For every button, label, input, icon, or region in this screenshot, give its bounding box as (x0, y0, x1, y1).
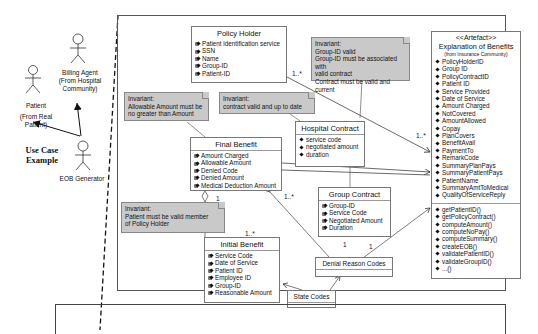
class-denial-reason-codes[interactable]: Denial Reason Codes (315, 257, 393, 277)
attribute: BenefitAvail (435, 139, 517, 146)
operation-icon (435, 251, 441, 256)
private-attribute-icon (208, 268, 214, 273)
operation: computeNoPay() (435, 228, 517, 235)
attribute: NotCovered (435, 110, 517, 117)
multiplicity-label: 1..* (245, 230, 255, 237)
operation: computeSummary() (435, 235, 517, 242)
attribute: Denied Amount (194, 174, 278, 181)
class-policy-holder[interactable]: Policy Holder Patient identification ser… (191, 26, 287, 83)
class-title: State Codes (288, 291, 335, 303)
use-case-example-label: Use Case Example (22, 145, 62, 165)
attribute: Allowable Amount (194, 159, 278, 166)
patient-actor-icon (20, 65, 46, 97)
operation-icon (435, 266, 441, 271)
billing-agent-origin-1: (From Hospital (55, 77, 105, 85)
note-fold-icon (308, 92, 315, 99)
class-title: Policy Holder (192, 27, 286, 39)
attribute: service code (299, 136, 361, 143)
private-attribute-icon (195, 56, 201, 61)
note-group-invariant: Invariant: Group-ID valid Group-ID must … (311, 37, 410, 81)
bottom-frame (55, 304, 506, 334)
attribute: Medical Deduction Amount (194, 182, 278, 189)
multiplicity-label: 1 (216, 195, 220, 202)
attribute: Service Provided (435, 88, 517, 95)
attribute: Patient-ID (195, 70, 283, 77)
attribute-icon (299, 152, 305, 157)
private-attribute-icon (195, 63, 201, 68)
class-explanation-of-benefits[interactable]: <<Artefact>> Explanation of Benefits (fr… (431, 31, 521, 279)
attribute-icon (435, 148, 441, 153)
operation: ...() (435, 265, 517, 272)
multiplicity-label: 1 (343, 241, 347, 248)
attribute: Negotiated Amount (322, 217, 387, 224)
attribute-icon (435, 126, 441, 131)
attribute: SummaryAmtToMedical (435, 184, 517, 191)
class-subtitle: (from Insurance Community) (432, 51, 520, 58)
private-attribute-icon (194, 183, 200, 188)
note-patient-invariant: Invariant: Patient must be valid member … (121, 202, 225, 233)
attribute: QualityOfServiceReply (435, 191, 517, 198)
patient-name: Patient (8, 102, 64, 110)
attribute: Date of Service (435, 95, 517, 102)
multiplicity-label: 1..* (416, 132, 426, 139)
attribute: Service Code (322, 209, 387, 216)
private-attribute-icon (322, 203, 328, 208)
attribute: Duration (322, 224, 387, 231)
note-fold-icon (202, 92, 209, 99)
operation-icon (435, 222, 441, 227)
class-title: Hospital Contract (296, 122, 364, 135)
attribute-icon (435, 118, 441, 123)
attribute: SSN (195, 47, 283, 54)
operation-icon (435, 207, 441, 212)
attribute: Date of Service (208, 259, 276, 266)
class-group-contract[interactable]: Group Contract Group-ID Service Code Neg… (318, 187, 391, 237)
class-title: Final Benefit (191, 138, 281, 151)
attribute-icon (435, 74, 441, 79)
attribute: PatientName (435, 177, 517, 184)
use-case-line-1: Use Case (22, 145, 62, 155)
attribute-icon (435, 170, 441, 175)
class-hospital-contract[interactable]: Hospital Contract service code negotiate… (295, 121, 365, 167)
operation: validatePatientID() (435, 250, 517, 257)
attribute: Group-ID (208, 282, 276, 289)
billing-agent-actor-icon (65, 33, 91, 69)
operation: getPolicyContract() (435, 213, 517, 220)
note-fold-icon (403, 37, 410, 44)
billing-agent-label: Billing Agent (From Hospital Community) (55, 69, 105, 93)
private-attribute-icon (208, 283, 214, 288)
eob-generator-actor-icon (70, 140, 96, 174)
attribute: negotiated amount (299, 143, 361, 150)
attribute-icon (435, 67, 441, 72)
attribute: AmountAllowed (435, 117, 517, 124)
private-attribute-icon (208, 261, 214, 266)
attribute-icon (435, 141, 441, 146)
stereotype-label: <<Artefact>> (432, 32, 520, 42)
use-case-line-2: Example (22, 155, 62, 165)
private-attribute-icon (195, 71, 201, 76)
operation-icon (435, 244, 441, 249)
multiplicity-label: 1..* (292, 70, 302, 77)
attribute: PolicyHolderID (435, 58, 517, 65)
attribute: SummaryPatientPays (435, 169, 517, 176)
class-title: Denial Reason Codes (316, 258, 392, 270)
note-contract-invariant: Invariant: contract valid and up to date (219, 92, 315, 114)
operation: validateGroupID() (435, 258, 517, 265)
attribute-icon (435, 81, 441, 86)
multiplicity-label: 1 (369, 243, 373, 250)
private-attribute-icon (194, 153, 200, 158)
attribute: Employee ID (208, 274, 276, 281)
class-title: Group Contract (319, 188, 390, 201)
attribute-icon (299, 145, 305, 150)
class-initial-benefit[interactable]: Initial Benefit Service Code Date of Ser… (204, 237, 280, 303)
class-final-benefit[interactable]: Final Benefit Amount Charged Allowable A… (190, 137, 282, 191)
operation: computeAmount() (435, 221, 517, 228)
attribute-icon (299, 137, 305, 142)
private-attribute-icon (208, 253, 214, 258)
attribute: Patient ID (435, 80, 517, 87)
attribute-icon (435, 96, 441, 101)
private-attribute-icon (208, 290, 214, 295)
patient-origin: (From Real Patient) (8, 113, 64, 129)
eob-generator-label: EOB Generator (52, 175, 112, 183)
attribute-icon (435, 133, 441, 138)
attribute-icon (435, 163, 441, 168)
